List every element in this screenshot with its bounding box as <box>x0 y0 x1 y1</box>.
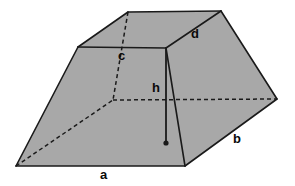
solid-drawing <box>0 0 295 186</box>
label-a: a <box>100 168 107 181</box>
height-endpoint-dot <box>163 140 168 145</box>
label-h: h <box>152 81 160 94</box>
geometry-figure: a b c d h <box>0 0 295 186</box>
label-d: d <box>191 27 199 40</box>
label-c: c <box>118 49 125 62</box>
label-b: b <box>233 132 241 145</box>
edge-top-back <box>128 11 221 12</box>
